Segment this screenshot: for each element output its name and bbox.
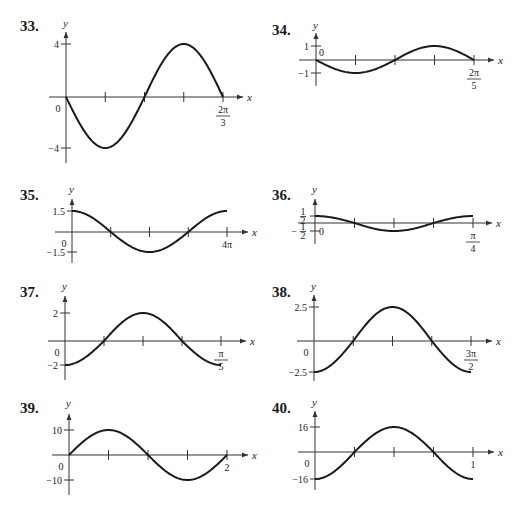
origin-label: 0 [56,103,61,114]
y-tick-label: 2 [53,308,58,319]
graph-40: 40.yx0116−16 [272,396,503,490]
curve-line [66,44,223,148]
x-axis-arrow-icon [488,58,494,63]
problem-number: 40. [272,400,291,416]
origin-label: 0 [304,347,309,358]
y-tick-label: 2.5 [295,302,308,313]
y-axis-label: y [311,396,317,408]
y-axis-label: y [62,17,68,29]
y-tick-label-sign: − [291,226,297,237]
x-axis-label: x [495,335,501,347]
graph-33: 33.yx02π34−4 [20,17,252,163]
y-axis-label: y [311,183,317,195]
problem-number: 35. [20,187,39,203]
y-tick-label: −2.5 [289,367,307,378]
x-axis-arrow-icon [237,95,243,100]
y-axis-label: y [310,280,316,292]
x-axis-arrow-icon [242,453,248,458]
problem-number: 37. [20,284,39,300]
x-axis-arrow-icon [486,221,492,226]
y-tick-label-denominator: 2 [301,230,306,241]
origin-label: 0 [305,458,310,469]
x-end-label-numerator: 3π [466,348,476,359]
y-axis-arrow-icon [312,295,317,301]
x-end-label-numerator: 2π [218,104,228,115]
y-axis-arrow-icon [63,296,68,302]
x-end-label-denominator: 3 [221,117,226,128]
x-end-label-numerator: π [218,348,223,359]
x-axis-label: x [495,217,501,229]
y-tick-label: 1 [304,41,309,52]
y-tick-label: −10 [46,475,62,486]
y-axis-arrow-icon [313,199,318,205]
y-tick-label: 1.5 [53,206,66,217]
graph-34: 34.yx02π51−1 [272,19,503,91]
y-tick-label: −1 [298,68,309,79]
x-end-label-numerator: 2π [469,67,479,78]
y-axis-label: y [61,280,67,292]
x-axis-label: x [249,335,255,347]
y-tick-label: 10 [52,425,62,436]
y-tick-label: −4 [48,143,59,154]
x-axis-arrow-icon [488,450,494,455]
origin-label: 0 [59,461,64,472]
y-tick-label: −2 [47,360,58,371]
x-axis-arrow-icon [486,339,492,344]
y-axis-label: y [312,19,318,31]
graph-37: 37.yx0π52−2 [20,280,255,380]
x-end-label-denominator: 2 [469,361,474,372]
problem-number: 34. [272,22,291,38]
graph-38: 38.yx03π22.5−2.5 [272,280,501,381]
graphs-canvas: 33.yx02π34−434.yx02π51−135.yx04π1.5−1.53… [0,0,518,511]
x-axis-label: x [251,226,257,238]
x-end-label-numerator: π [470,230,475,241]
problem-number: 39. [20,400,39,416]
x-end-label: 1 [471,459,476,470]
graph-36: 36.yx0π412−12 [272,183,501,254]
y-axis-arrow-icon [67,414,72,420]
x-end-label-denominator: 5 [472,80,477,91]
origin-label: 0 [55,347,60,358]
x-axis-arrow-icon [242,230,248,235]
problem-number: 33. [20,18,39,34]
y-axis-arrow-icon [70,199,75,205]
x-axis-arrow-icon [240,339,246,344]
y-axis-arrow-icon [313,411,318,417]
x-end-label: 2 [225,462,230,473]
graph-39: 39.yx0210−10 [20,397,257,495]
y-tick-label: 16 [298,422,308,433]
y-axis-arrow-icon [314,33,319,39]
y-axis-label: y [68,183,74,195]
origin-label: 0 [319,47,324,58]
y-axis-label: y [65,397,71,409]
problem-number: 36. [272,187,291,203]
x-end-label-denominator: 4 [471,243,476,254]
x-end-label: 4π [222,239,232,250]
problem-number: 38. [272,284,291,300]
x-axis-label: x [246,91,252,103]
y-tick-label: −16 [292,474,308,485]
y-axis-arrow-icon [64,32,69,38]
y-tick-label: 4 [54,39,59,50]
x-axis-label: x [497,54,503,66]
x-axis-label: x [251,449,257,461]
y-tick-label: −1.5 [47,247,65,258]
graph-35: 35.yx04π1.5−1.5 [20,183,257,263]
x-end-label-denominator: 5 [219,361,224,372]
x-axis-label: x [497,446,503,458]
